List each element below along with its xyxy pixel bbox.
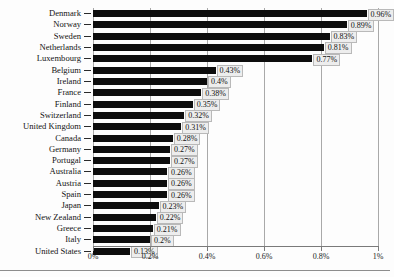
category-label: Canada — [55, 133, 81, 144]
bar-row: Germany0.27% — [93, 144, 378, 155]
category-label: Italy — [65, 234, 81, 245]
bar — [93, 236, 150, 243]
category-tick — [84, 47, 91, 48]
bar-row: Switzerland0.32% — [93, 110, 378, 121]
bar — [93, 55, 312, 62]
category-tick — [84, 217, 91, 218]
bar-row: Austria0.26% — [93, 178, 378, 189]
bar — [93, 10, 367, 17]
bar-row: Ireland0.4% — [93, 76, 378, 87]
category-label: Ireland — [57, 76, 81, 87]
category-tick — [84, 81, 91, 82]
category-label: Germany — [49, 144, 81, 155]
category-tick — [84, 126, 91, 127]
bar — [93, 67, 216, 74]
bar — [93, 78, 207, 85]
category-label: Luxembourg — [37, 53, 81, 64]
category-label: Denmark — [49, 8, 81, 19]
bar-row: Japan0.23% — [93, 200, 378, 211]
category-label: United Kingdom — [23, 121, 81, 132]
category-tick — [84, 138, 91, 139]
bar-row: Denmark0.96% — [93, 8, 378, 19]
x-tick — [150, 246, 151, 251]
category-tick — [84, 205, 91, 206]
category-label: Greece — [57, 223, 81, 234]
bar — [93, 44, 324, 51]
bar — [93, 180, 167, 187]
x-tick — [378, 246, 379, 251]
category-label: New Zealand — [35, 212, 81, 223]
x-tick-label: 0% — [88, 252, 99, 261]
bar-row: France0.38% — [93, 87, 378, 98]
bar-row: Spain0.26% — [93, 189, 378, 200]
bar-row: United Kingdom0.31% — [93, 121, 378, 132]
x-tick-label: 1% — [373, 252, 384, 261]
bar — [93, 191, 167, 198]
bar-row: Greece0.21% — [93, 223, 378, 234]
bar-row: Canada0.28% — [93, 133, 378, 144]
category-tick — [84, 115, 91, 116]
category-tick — [84, 92, 91, 93]
x-tick — [321, 246, 322, 251]
category-label: Austria — [56, 178, 81, 189]
category-label: Netherlands — [39, 42, 81, 53]
bar-row: Portugal0.27% — [93, 155, 378, 166]
category-tick — [84, 104, 91, 105]
category-tick — [84, 228, 91, 229]
bar — [93, 214, 156, 221]
bar-row: Finland0.35% — [93, 99, 378, 110]
category-tick — [84, 70, 91, 71]
category-label: Portugal — [52, 155, 81, 166]
bar-row: Luxembourg0.77% — [93, 53, 378, 64]
category-tick — [84, 239, 91, 240]
bar — [93, 112, 184, 119]
plot-area: Denmark0.96%Norway0.89%Sweden0.83%Nether… — [93, 8, 378, 246]
category-tick — [84, 58, 91, 59]
bar-row: Australia0.26% — [93, 166, 378, 177]
bar-row: United States0.13% — [93, 246, 378, 257]
category-tick — [84, 36, 91, 37]
x-tick-label: 0.2% — [142, 252, 159, 261]
bar-row: Norway0.89% — [93, 19, 378, 30]
category-label: Japan — [61, 200, 81, 211]
bar-row: Sweden0.83% — [93, 31, 378, 42]
x-tick — [264, 246, 265, 251]
bar — [93, 225, 153, 232]
category-label: Australia — [49, 166, 81, 177]
bar-row: Belgium0.43% — [93, 65, 378, 76]
bar-row: Netherlands0.81% — [93, 42, 378, 53]
footer-divider — [0, 270, 390, 271]
category-label: Spain — [61, 189, 81, 200]
bar-row: Italy0.2% — [93, 234, 378, 245]
category-label: France — [58, 87, 81, 98]
category-label: Norway — [53, 19, 81, 30]
category-tick — [84, 149, 91, 150]
x-tick-label: 0.8% — [313, 252, 330, 261]
x-tick — [93, 246, 94, 251]
x-tick-label: 0.4% — [199, 252, 216, 261]
bar — [93, 123, 181, 130]
category-label: Switzerland — [40, 110, 81, 121]
category-label: Finland — [55, 99, 81, 110]
x-tick-label: 0.6% — [256, 252, 273, 261]
bar-row: New Zealand0.22% — [93, 212, 378, 223]
category-tick — [84, 24, 91, 25]
bar — [93, 135, 173, 142]
bar — [93, 33, 330, 40]
bar — [93, 21, 347, 28]
bar — [93, 168, 167, 175]
x-tick — [207, 246, 208, 251]
gridline-1 — [378, 8, 379, 246]
category-label: United States — [35, 246, 81, 257]
category-tick — [84, 183, 91, 184]
bar — [93, 202, 159, 209]
category-tick — [84, 171, 91, 172]
bar — [93, 101, 193, 108]
category-label: Belgium — [51, 65, 81, 76]
x-axis-line — [93, 246, 379, 247]
category-tick — [84, 160, 91, 161]
category-tick — [84, 194, 91, 195]
bar — [93, 146, 170, 153]
category-label: Sweden — [54, 31, 81, 42]
